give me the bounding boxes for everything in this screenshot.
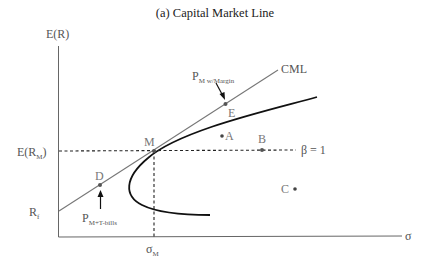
risk-free-label: Rf [29, 205, 40, 221]
cml-label: CML [281, 62, 307, 76]
market-return-label: E(RM) [17, 145, 47, 161]
point-a [220, 134, 224, 138]
y-axis-label: E(R) [46, 27, 69, 41]
point-a-label: A [225, 129, 234, 143]
point-c [293, 187, 297, 191]
x-axis [59, 236, 403, 237]
point-b [260, 148, 264, 152]
capital-market-line-diagram: (a) Capital Market Line E(R) σ CML β = 1… [0, 0, 431, 271]
cml-line [59, 70, 278, 211]
point-b-label: B [258, 132, 266, 146]
point-c-label: C [281, 182, 289, 196]
point-e [224, 102, 228, 106]
diagram-title: (a) Capital Market Line [156, 6, 275, 20]
beta-one-label: β = 1 [301, 143, 326, 157]
tbill-portfolio-label: PM+T-bills [82, 211, 117, 227]
point-m-label: M [144, 135, 155, 149]
x-axis-label: σ [405, 229, 412, 243]
margin-portfolio-label: PM w/Margin [192, 69, 235, 85]
margin-arrow-icon [216, 83, 225, 100]
point-d [98, 183, 102, 187]
efficient-frontier-curve [129, 97, 317, 215]
point-d-label: D [95, 169, 104, 183]
tbill-arrow-icon [98, 190, 104, 209]
point-e-label: E [228, 106, 235, 120]
market-sigma-label: σM [146, 242, 159, 258]
point-m [152, 149, 156, 153]
